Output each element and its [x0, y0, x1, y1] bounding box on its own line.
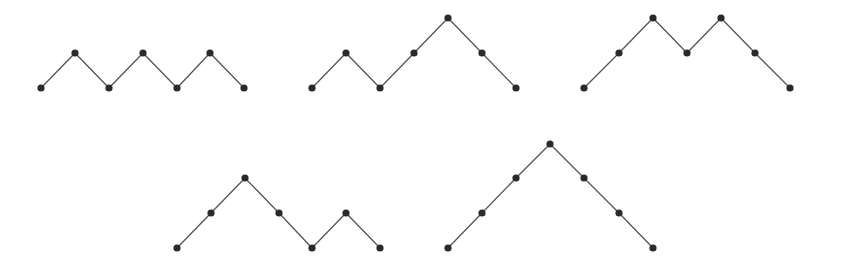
path-node: [580, 174, 587, 181]
path-node: [376, 244, 383, 251]
path-node: [308, 84, 315, 91]
path-node: [512, 174, 519, 181]
path-node: [173, 244, 180, 251]
path-node: [37, 84, 44, 91]
path-node: [275, 209, 282, 216]
path-node: [615, 49, 622, 56]
path-node: [751, 49, 758, 56]
path-node: [241, 174, 248, 181]
dyck-path-4: [173, 174, 383, 251]
path-node: [580, 84, 587, 91]
path-node: [342, 209, 349, 216]
path-node: [546, 140, 553, 147]
path-node: [139, 49, 146, 56]
dyck-path-2: [308, 14, 519, 91]
dyck-paths-diagram: [0, 0, 842, 269]
path-node: [649, 244, 656, 251]
path-node: [71, 49, 78, 56]
path-node: [786, 84, 793, 91]
dyck-path-3: [580, 14, 793, 91]
path-line: [448, 144, 653, 248]
path-node: [683, 49, 690, 56]
path-node: [207, 209, 214, 216]
path-node: [717, 14, 724, 21]
path-node: [512, 84, 519, 91]
path-node: [308, 244, 315, 251]
path-node: [173, 84, 180, 91]
path-node: [240, 84, 247, 91]
path-node: [342, 49, 349, 56]
path-node: [615, 209, 622, 216]
path-node: [649, 14, 656, 21]
path-node: [376, 84, 383, 91]
path-line: [41, 53, 244, 88]
path-node: [206, 49, 213, 56]
dyck-path-1: [37, 49, 247, 91]
dyck-path-5: [444, 140, 656, 251]
path-node: [410, 49, 417, 56]
path-node: [444, 14, 451, 21]
path-node: [444, 244, 451, 251]
path-node: [478, 49, 485, 56]
path-node: [478, 209, 485, 216]
path-node: [105, 84, 112, 91]
